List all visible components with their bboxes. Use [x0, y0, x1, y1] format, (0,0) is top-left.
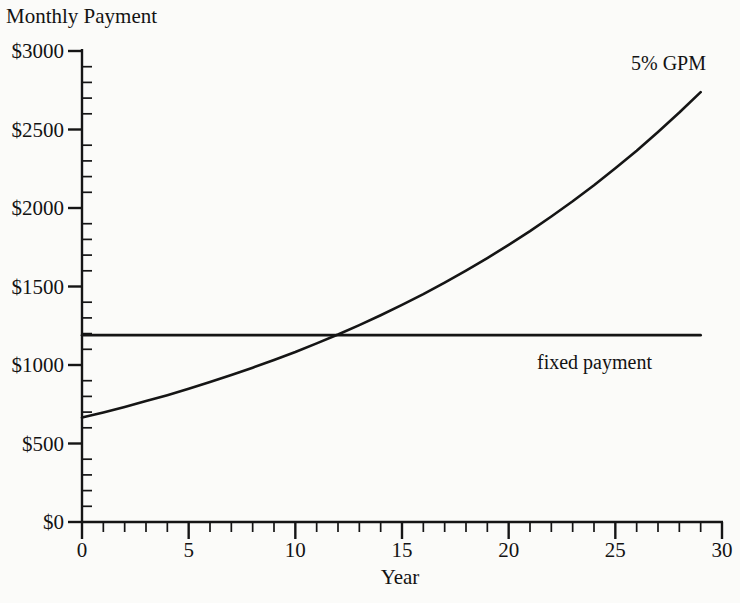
- x-axis-tick-label: 10: [285, 538, 306, 563]
- x-axis-tick-label: 5: [183, 538, 194, 563]
- y-axis-tick-label: $500: [22, 431, 64, 456]
- x-axis-label: Year: [381, 565, 420, 590]
- y-axis-tick-label: $0: [43, 510, 64, 535]
- chart-plot-area: [0, 0, 740, 603]
- y-axis-tick-label: $3000: [12, 39, 65, 64]
- series-label-gpm: 5% GPM: [631, 52, 706, 75]
- x-axis-tick-label: 30: [712, 538, 733, 563]
- x-axis-tick-label: 15: [392, 538, 413, 563]
- x-axis-ticks: [82, 522, 722, 539]
- y-axis-tick-label: $1500: [12, 274, 65, 299]
- axes: [81, 49, 723, 523]
- chart-page: Monthly Payment $0$500$1000$1500$2000$25…: [0, 0, 740, 603]
- y-axis-tick-label: $2000: [12, 196, 65, 221]
- series-label-fixed: fixed payment: [537, 351, 652, 374]
- y-axis-ticks: [68, 51, 92, 522]
- x-axis-tick-label: 25: [605, 538, 626, 563]
- y-axis-tick-label: $2500: [12, 117, 65, 142]
- x-axis-tick-label: 20: [498, 538, 519, 563]
- y-axis-tick-label: $1000: [12, 353, 65, 378]
- x-axis-tick-label: 0: [77, 538, 88, 563]
